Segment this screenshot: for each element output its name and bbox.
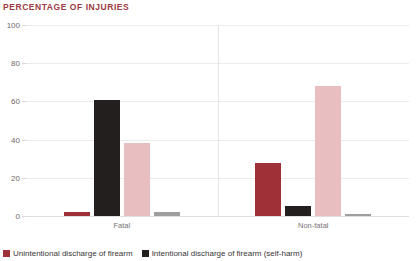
bar-non-fatal-series-2	[285, 206, 311, 216]
chart-title: PERCENTAGE OF INJURIES	[3, 2, 129, 12]
chart-container: PERCENTAGE OF INJURIES 020406080100 Fata…	[0, 0, 418, 261]
y-tick-20	[22, 178, 26, 179]
y-tick-100	[22, 25, 26, 26]
bar-fatal-series-4	[154, 212, 180, 216]
legend-swatch-icon-2	[142, 250, 149, 257]
group-divider-1	[218, 25, 219, 216]
legend-label-1: Unintentional discharge of firearm	[13, 249, 133, 258]
y-tick-0	[22, 216, 26, 217]
chart-legend: Unintentional discharge of firearmIntent…	[3, 249, 311, 258]
y-tick-40	[22, 140, 26, 141]
plot-area: 020406080100 FatalNon-fatal	[26, 25, 409, 216]
y-tick-60	[22, 101, 26, 102]
y-axis-label-100: 100	[7, 21, 20, 30]
bar-fatal-series-2	[94, 100, 120, 217]
legend-item-2[interactable]: Intentional discharge of firearm (self-h…	[142, 249, 303, 258]
y-axis-label-20: 20	[11, 173, 20, 182]
y-axis-label-0: 0	[16, 212, 20, 221]
legend-item-1[interactable]: Unintentional discharge of firearm	[3, 249, 133, 258]
y-axis-label-80: 80	[11, 59, 20, 68]
y-axis-label-40: 40	[11, 135, 20, 144]
bar-non-fatal-series-3	[315, 86, 341, 216]
bar-non-fatal-series-4	[345, 214, 371, 216]
legend-swatch-icon-1	[3, 250, 10, 257]
legend-label-2: Intentional discharge of firearm (self-h…	[152, 249, 303, 258]
y-tick-80	[22, 63, 26, 64]
category-label-fatal: Fatal	[113, 221, 130, 230]
gridline-0	[26, 216, 409, 217]
category-label-non-fatal: Non-fatal	[298, 221, 328, 230]
bar-fatal-series-3	[124, 143, 150, 216]
bar-fatal-series-1	[64, 212, 90, 216]
y-axis-label-60: 60	[11, 97, 20, 106]
bar-non-fatal-series-1	[255, 163, 281, 216]
